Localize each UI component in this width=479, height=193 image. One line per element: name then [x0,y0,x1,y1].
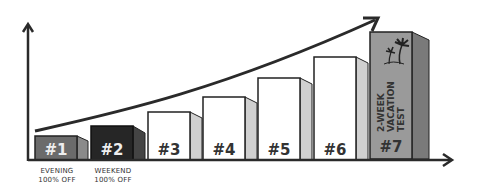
bar-5-label: #5 [267,141,290,159]
bar-6-label: #6 [323,141,346,159]
bar-2-caption: WEEKEND 100% OFF [88,167,138,185]
svg-text:TEST: TEST [396,106,406,132]
bar-4-label: #4 [212,141,235,159]
bar-2: #2 [91,126,145,160]
bar-4: #4 [203,97,257,160]
bar-1-caption: EVENING 100% OFF [32,167,82,185]
bar-2-caption-line2: 100% OFF [88,176,138,185]
bar-2-label: #2 [100,141,123,159]
bar-1-label: #1 [44,141,67,159]
bar-7-label: #7 [379,138,402,156]
bar-1-caption-line1: EVENING [32,167,82,176]
svg-text:2-WEEK: 2-WEEK [376,92,386,132]
bar-7: #7 2-WEEK VACATION TEST [370,32,429,159]
bar-3: #3 [148,112,202,160]
bar-2-caption-line1: WEEKEND [88,167,138,176]
bar-6: #6 [314,57,368,160]
bar-1-caption-line2: 100% OFF [32,176,82,185]
svg-text:VACATION: VACATION [386,81,396,132]
bar-3-label: #3 [157,141,180,159]
progression-diagram: #1 #2 #3 #4 #5 #6 #7 2-WEEK VACATION TE [0,0,479,193]
bar-5: #5 [258,78,312,160]
bar-1: #1 [35,136,88,160]
